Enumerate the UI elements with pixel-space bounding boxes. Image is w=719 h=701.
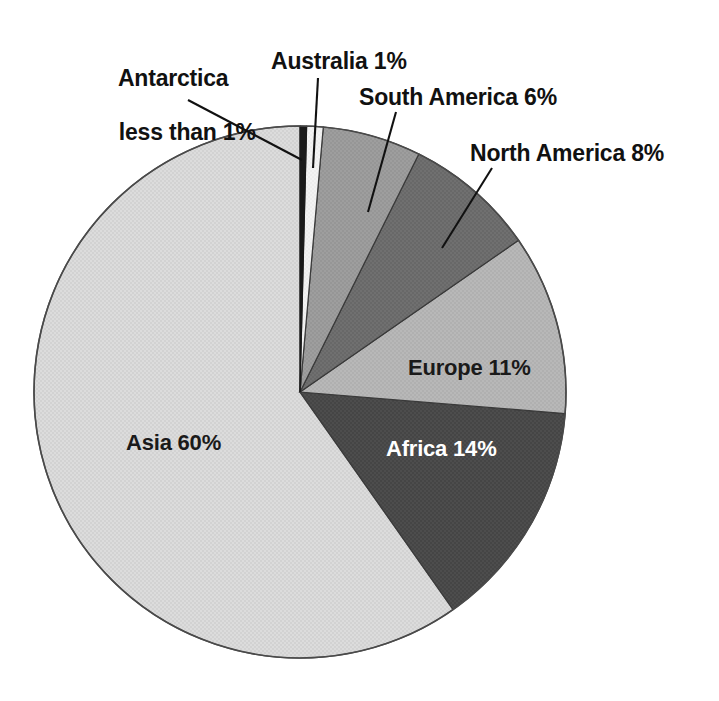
callout-south-america: South America 6% (359, 84, 557, 111)
inner-label-asia: Asia 60% (126, 430, 221, 456)
inner-label-africa: Africa 14% (386, 436, 497, 462)
inner-label-europe: Europe 11% (408, 355, 531, 381)
callout-antarctica-line1: Antarctica (118, 65, 229, 91)
callout-antarctica: Antarctica less than 1% (94, 38, 256, 174)
callout-antarctica-line2: less than 1% (119, 119, 256, 145)
callout-north-america: North America 8% (470, 140, 664, 167)
pie-chart: Antarctica less than 1% Australia 1% Sou… (0, 0, 719, 701)
callout-australia: Australia 1% (271, 48, 407, 75)
